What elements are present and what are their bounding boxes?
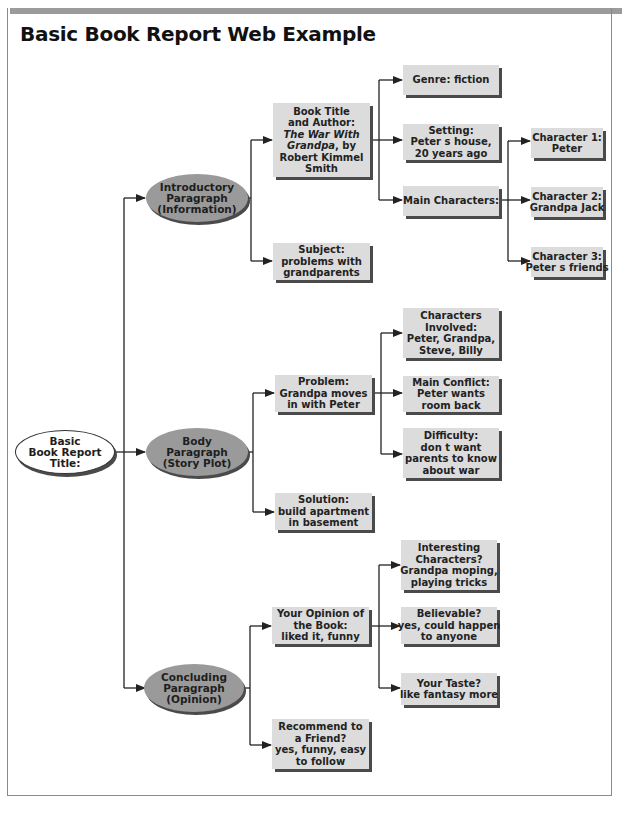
oval-line: Introductory — [160, 182, 234, 193]
node-character-1: Character 1: Peter — [531, 128, 603, 158]
box-line: a Friend? — [295, 733, 347, 745]
box-line: room back — [421, 400, 480, 412]
node-genre: Genre: fiction — [403, 65, 499, 95]
box-line: Peter s house, — [410, 136, 491, 148]
box-line: yes, could happen — [398, 620, 501, 632]
box-line: 20 years ago — [415, 148, 488, 160]
node-setting: Setting: Peter s house, 20 years ago — [403, 124, 499, 160]
box-line: don t want — [421, 442, 482, 454]
oval-line: Paragraph — [166, 447, 228, 458]
box-line: like fantasy more — [400, 689, 498, 701]
section-introductory-paragraph: Introductory Paragraph (Information) — [146, 174, 248, 222]
box-line: Grandpa moves — [279, 388, 367, 400]
box-line: Grandpa moping, — [400, 565, 498, 577]
node-believable: Believable? yes, could happen to anyone — [401, 607, 497, 644]
oval-line: Paragraph — [163, 683, 225, 694]
root-line: Title: — [50, 458, 81, 469]
box-line: and Author: — [288, 117, 355, 129]
node-problem: Problem: Grandpa moves in with Peter — [275, 375, 372, 412]
box-line: Smith — [305, 163, 338, 175]
box-line: Main Conflict: — [412, 377, 490, 389]
oval-line: (Information) — [157, 204, 236, 215]
node-character-3: Character 3: Peter s friends — [531, 247, 603, 277]
node-character-2: Character 2: Grandpa Jack — [531, 187, 603, 217]
box-line: Subject: — [298, 244, 344, 256]
node-main-conflict: Main Conflict: Peter wants room back — [403, 376, 499, 412]
box-line: Problem: — [298, 376, 349, 388]
box-line: Peter, Grandpa, — [407, 333, 495, 345]
box-line: Character 1: — [532, 132, 602, 144]
box-line: in with Peter — [287, 399, 360, 411]
box-line: grandparents — [283, 267, 360, 279]
oval-line: (Story Plot) — [163, 458, 232, 469]
box-line: Genre: fiction — [413, 74, 490, 86]
node-recommend-to-friend: Recommend to a Friend? yes, funny, easy … — [272, 719, 369, 769]
box-line: Recommend to — [278, 721, 362, 733]
box-line: Setting: — [428, 125, 473, 137]
node-subject: Subject: problems with grandparents — [273, 243, 370, 280]
section-body-paragraph: Body Paragraph (Story Plot) — [146, 428, 248, 476]
oval-line: Concluding — [161, 672, 227, 683]
section-concluding-paragraph: Concluding Paragraph (Opinion) — [144, 664, 244, 712]
book-title-italic: The War With — [283, 129, 359, 141]
box-line: Grandpa Jack — [530, 202, 605, 214]
oval-line: (Opinion) — [166, 694, 221, 705]
box-line: Involved: — [425, 322, 477, 334]
box-line: playing tricks — [411, 577, 487, 589]
box-line: Difficulty: — [424, 430, 479, 442]
box-line: Character 2: — [532, 191, 602, 203]
box-line: yes, funny, easy — [275, 744, 366, 756]
root-line: Book Report — [28, 447, 101, 458]
box-line: Robert Kimmel — [280, 152, 364, 164]
node-main-characters: Main Characters: — [403, 186, 499, 216]
box-line: Peter wants — [417, 388, 485, 400]
box-line: the Book: — [293, 620, 347, 632]
node-solution: Solution: build apartment in basement — [275, 493, 372, 530]
node-book-title-author: Book Title and Author: The War With Gran… — [273, 103, 370, 177]
box-line: Solution: — [298, 494, 349, 506]
box-line: build apartment — [278, 506, 369, 518]
node-your-opinion: Your Opinion of the Book: liked it, funn… — [272, 607, 369, 644]
box-line: Your Opinion of — [277, 608, 364, 620]
node-your-taste: Your Taste? like fantasy more — [401, 673, 497, 705]
box-line: Believable? — [417, 608, 481, 620]
box-line: parents to know — [405, 453, 497, 465]
box-line: to anyone — [421, 631, 477, 643]
box-line: to follow — [296, 756, 345, 768]
box-line: about war — [422, 465, 479, 477]
box-line: in basement — [289, 517, 359, 529]
box-line: Character 3: — [532, 251, 602, 263]
book-title-italic: Grandpa — [287, 140, 335, 151]
box-line: Grandpa, by — [287, 140, 356, 152]
box-line: Your Taste? — [417, 678, 481, 690]
box-line: Steve, Billy — [419, 345, 483, 357]
box-line: Characters? — [415, 554, 482, 566]
node-characters-involved: Characters Involved: Peter, Grandpa, Ste… — [403, 308, 499, 358]
box-line: Peter s friends — [525, 262, 608, 274]
box-line: liked it, funny — [281, 631, 359, 643]
node-interesting-characters: Interesting Characters? Grandpa moping, … — [401, 540, 497, 590]
box-line: Main Characters: — [403, 195, 499, 207]
oval-line: Body — [182, 436, 212, 447]
box-line: Peter — [552, 143, 583, 155]
root-node-book-report-title: Basic Book Report Title: — [15, 430, 115, 474]
node-difficulty: Difficulty: don t want parents to know a… — [403, 428, 499, 478]
root-line: Basic — [49, 436, 80, 447]
box-line: Characters — [420, 310, 481, 322]
box-line: problems with — [281, 256, 362, 268]
oval-line: Paragraph — [166, 193, 228, 204]
box-line: Interesting — [418, 542, 481, 554]
box-line: Book Title — [293, 106, 350, 118]
